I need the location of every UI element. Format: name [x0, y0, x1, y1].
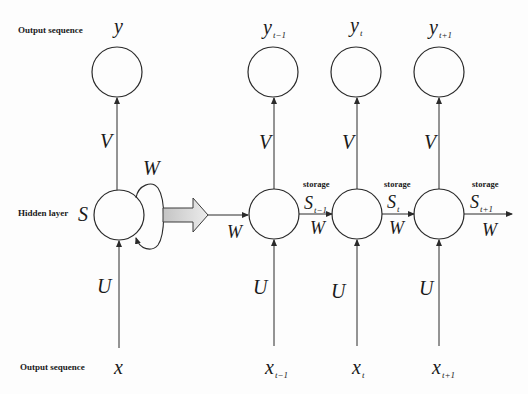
output-label-t+1: yt+1 [429, 17, 452, 37]
output-node-t-1 [248, 47, 298, 97]
folded-input-x: x [114, 357, 123, 377]
weight-v-t+1: V [424, 132, 436, 152]
weight-v-t: V [342, 132, 354, 152]
entry-weight-w: W [227, 223, 242, 241]
output-node-t [331, 47, 381, 97]
hidden-node-t [332, 189, 382, 239]
folded-output-node [92, 47, 142, 97]
weight-w-t-1: W [310, 219, 325, 237]
output-sequence-label-top: Output sequence [18, 26, 83, 35]
unfolded-step-3 [414, 47, 512, 346]
weight-u-t: U [331, 281, 345, 301]
hidden-node-t-1 [249, 189, 299, 239]
folded-weight-v: V [100, 131, 112, 151]
unfold-arrow-icon [163, 198, 208, 232]
hidden-node-t+1 [414, 189, 464, 239]
folded-weight-u: U [97, 276, 111, 296]
output-label-t-1: yt−1 [263, 17, 286, 37]
weight-w-t: W [389, 219, 404, 237]
weight-u-t+1: U [419, 278, 433, 298]
output-sequence-label-bottom: Output sequence [20, 363, 85, 372]
weight-v-t-1: V [259, 132, 271, 152]
folded-rnn [92, 47, 164, 348]
weight-w-t+1: W [482, 221, 497, 239]
weight-u-t-1: U [253, 277, 267, 297]
rnn-diagram: Output sequence Hidden layer Output sequ… [0, 0, 528, 394]
storage-label-2: storage [384, 180, 410, 189]
input-label-t-1: xt−1 [265, 357, 288, 377]
output-node-t+1 [414, 47, 464, 97]
hidden-layer-label: Hidden layer [18, 209, 68, 218]
folded-recurrent-loop [136, 184, 164, 249]
diagram-graphics [0, 0, 528, 394]
state-label-t+1: St+1 [470, 193, 493, 211]
storage-label-1: storage [303, 180, 329, 189]
output-label-t: yt [350, 15, 362, 35]
folded-hidden-s: S [78, 204, 88, 224]
storage-label-3: storage [472, 180, 498, 189]
input-label-t: xt [352, 357, 364, 377]
state-label-t-1: St−1 [304, 194, 327, 212]
state-label-t: St [387, 193, 400, 211]
folded-output-y: y [114, 16, 123, 36]
input-label-t+1: xt+1 [432, 357, 455, 377]
folded-weight-w: W [143, 158, 160, 178]
